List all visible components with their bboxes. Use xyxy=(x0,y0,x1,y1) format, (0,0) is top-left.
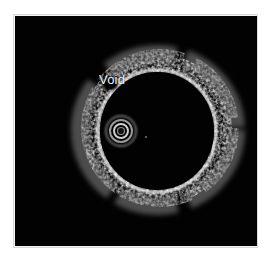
void-label: Void xyxy=(99,72,125,87)
catheter-icon xyxy=(106,116,136,146)
vessel-cross-section xyxy=(15,16,257,246)
intravascular-image xyxy=(15,16,257,246)
